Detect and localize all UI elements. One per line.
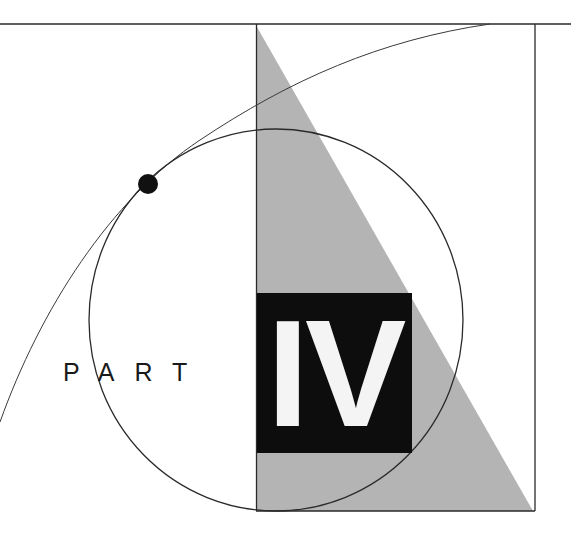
part-numeral: IV [257,293,412,453]
tangent-dot [138,174,158,194]
part-label: PART [63,360,207,385]
geometric-illustration [0,0,571,549]
numeral-box: IV [257,293,412,453]
